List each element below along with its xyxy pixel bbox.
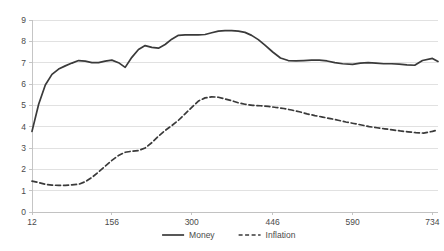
y-axis-tick-label: 7 (21, 58, 26, 68)
data-series (32, 31, 438, 186)
x-axis-tick-label: 300 (185, 217, 199, 227)
y-axis-tick-label: 1 (21, 186, 26, 196)
x-axis-tick-label: 156 (105, 217, 119, 227)
y-axis-tick-label: 8 (21, 36, 26, 46)
chart-plot-area: 0123456789 12156300446590734 MoneyInflat… (0, 0, 444, 251)
x-axis-tick-label: 590 (345, 217, 359, 227)
y-axis-tick-label: 5 (21, 100, 26, 110)
y-axis-tick-label: 4 (21, 122, 26, 132)
y-axis-tick-label: 0 (21, 207, 26, 217)
x-axis-tick-label: 446 (266, 217, 280, 227)
y-axis-tick-label: 2 (21, 164, 26, 174)
x-axis-tick-label: 12 (27, 217, 37, 227)
legend-label-money: Money (189, 230, 215, 240)
axes (29, 20, 438, 215)
y-axis-tick-label: 9 (21, 15, 26, 25)
y-axis-tick-label: 6 (21, 79, 26, 89)
series-line-inflation (32, 97, 438, 186)
y-axis-tick-label: 3 (21, 143, 26, 153)
legend-label-inflation: Inflation (266, 230, 296, 240)
x-axis-tick-labels: 12156300446590734 (27, 217, 440, 227)
x-axis-tick-label: 734 (425, 217, 439, 227)
series-line-money (32, 31, 438, 132)
y-axis-tick-labels: 0123456789 (21, 15, 26, 217)
gridlines (32, 20, 438, 212)
line-chart: 0123456789 12156300446590734 MoneyInflat… (0, 0, 444, 251)
chart-legend: MoneyInflation (162, 230, 296, 240)
